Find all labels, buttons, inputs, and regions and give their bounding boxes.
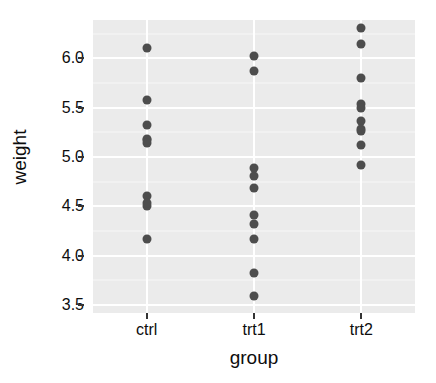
data-point [250, 220, 259, 229]
y-axis-title: weight [0, 0, 40, 313]
data-point [250, 171, 259, 180]
data-point [142, 199, 151, 208]
x-axis-tick-label-trt1: trt1 [242, 321, 265, 339]
data-point [357, 141, 366, 150]
y-axis-tick-mark [78, 107, 84, 109]
x-axis-tick-label-trt2: trt2 [350, 321, 373, 339]
data-point [250, 268, 259, 277]
plot-panel [93, 20, 415, 313]
x-axis-tick-mark [146, 313, 148, 319]
gridline-major-vertical [146, 20, 148, 313]
data-point [250, 183, 259, 192]
data-point [357, 74, 366, 83]
data-point [250, 51, 259, 60]
data-point [357, 103, 366, 112]
data-point [357, 23, 366, 32]
data-point [142, 43, 151, 52]
data-point [142, 235, 151, 244]
y-axis-tick-label-group: 3.54.04.55.05.56.0 [38, 0, 84, 383]
x-axis-tick-mark [360, 313, 362, 319]
data-point [142, 120, 151, 129]
data-point [357, 39, 366, 48]
data-point [142, 139, 151, 148]
y-axis-tick-mark [78, 156, 84, 158]
data-point [250, 163, 259, 172]
data-point [250, 235, 259, 244]
x-axis-tick-label-group: ctrltrt1trt2 [93, 321, 415, 345]
data-point [250, 211, 259, 220]
x-axis-tick-mark [253, 313, 255, 319]
data-point [357, 127, 366, 136]
x-axis-title: group [93, 347, 415, 369]
x-axis-tick-mark-group [93, 313, 415, 321]
data-point [250, 67, 259, 76]
data-point [142, 95, 151, 104]
y-axis-tick-mark [78, 205, 84, 207]
data-point [250, 292, 259, 301]
y-axis-tick-mark [78, 255, 84, 257]
data-point [357, 161, 366, 170]
y-axis-tick-mark [78, 304, 84, 306]
y-axis-title-text: weight [9, 129, 31, 184]
y-axis-tick-mark [78, 57, 84, 59]
x-axis-tick-label-ctrl: ctrl [136, 321, 157, 339]
plant-growth-strip-chart: weight 3.54.04.55.05.56.0 ctrltrt1trt2 g… [0, 0, 436, 383]
